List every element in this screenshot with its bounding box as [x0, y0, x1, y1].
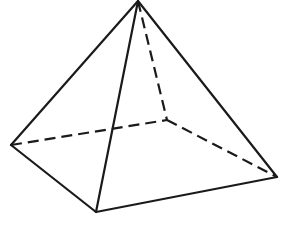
square-pyramid-figure: [0, 0, 282, 226]
